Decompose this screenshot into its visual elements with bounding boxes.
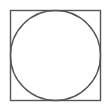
inscribed-circle — [11, 11, 101, 101]
square-with-inscribed-circle-diagram — [0, 0, 104, 105]
